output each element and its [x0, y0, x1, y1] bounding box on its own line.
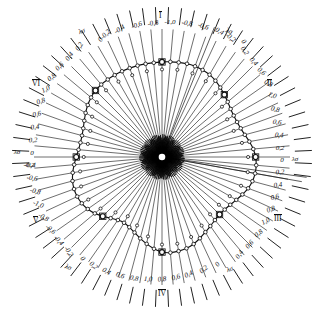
sector-label-iv: IV — [158, 289, 166, 298]
scale-label-right-mid-0: 0 — [280, 157, 283, 165]
polar-plot-canvas — [0, 0, 324, 310]
scale-label-left-mid-1: λσ — [14, 149, 20, 157]
scale-label-left-upper-1: 0,4 — [30, 124, 39, 132]
scale-label-left-mid-0: 0 — [30, 150, 33, 158]
sector-label-iii: III — [274, 214, 282, 223]
scale-label-top-row-6: -1,0 — [165, 19, 176, 27]
sector-label-v: V — [33, 216, 38, 225]
scale-label-top-row-7: -0,8 — [181, 20, 193, 29]
scale-label-right-upper-8: 0,2 — [276, 145, 285, 153]
scale-label-right-upper-7: 0,4 — [274, 132, 283, 140]
sector-label-i: I — [159, 11, 162, 20]
sector-label-ii: II — [267, 79, 272, 88]
scale-label-bottom-row-5: 0,8 — [157, 276, 166, 284]
scale-label-left-lower-6: -0,6 — [26, 175, 38, 184]
scale-label-bottom-row-7: 0,8 — [129, 275, 139, 284]
polar-diagram-figure: λσ0-0,2-0,4-0,6-0,8-1,0-0,8-0,60,4-0,20λ… — [0, 0, 324, 310]
scale-label-left-mid-2: -0,2 — [24, 162, 35, 170]
scale-label-right-mid-1: λσ — [292, 156, 298, 164]
scale-label-right-upper-6: 0,6 — [272, 119, 282, 128]
scale-label-right-lower-1: 0,4 — [273, 182, 283, 191]
scale-label-bottom-row-6: 1,0 — [144, 276, 153, 284]
scale-label-left-upper-0: 0,2 — [29, 137, 38, 145]
sector-label-vi: VI — [32, 79, 40, 88]
scale-label-right-lower-0: 0,2 — [275, 169, 284, 177]
